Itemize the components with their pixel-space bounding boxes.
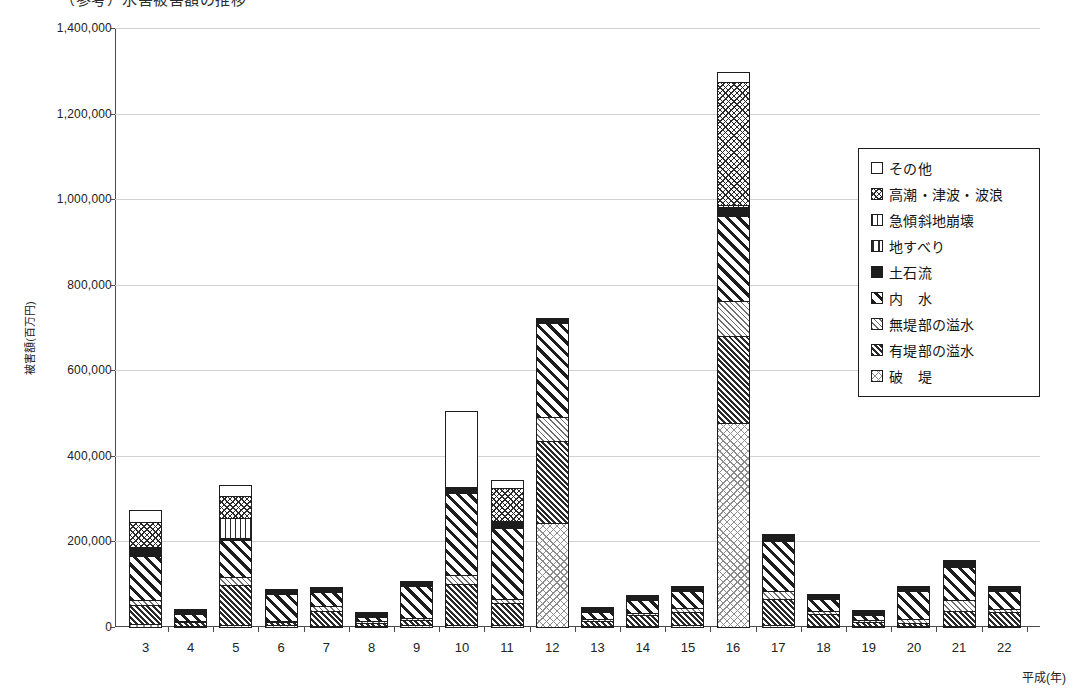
bar-segment-levee_breach (310, 626, 343, 628)
y-tick-mark (110, 28, 115, 29)
bar-segment-levee_breach (671, 625, 704, 628)
bar-7 (310, 587, 343, 627)
bar-segment-levee_breach (626, 626, 659, 628)
bar-17 (762, 534, 795, 627)
x-tick-mark (484, 627, 485, 632)
bar-segment-overflow_no_levee (536, 417, 569, 442)
bar-segment-overflow_levee (129, 605, 162, 624)
legend-swatch-overflow_levee (871, 344, 883, 356)
bar-segment-inland_water (310, 592, 343, 607)
x-tick-mark (982, 627, 983, 632)
legend-item-levee_breach: 破 堤 (859, 363, 1039, 389)
bar-segment-overflow_levee (310, 611, 343, 627)
legend-item-storm_surge: 高潮・津波・波浪 (859, 181, 1039, 207)
bar-segment-other (445, 411, 478, 488)
bar-segment-storm_surge (219, 496, 252, 520)
bar-segment-inland_water (445, 493, 478, 576)
legend-label-landslide: 地すべり (889, 236, 945, 256)
y-tick-label: 1,000,000 (28, 192, 112, 206)
bar-segment-levee_breach (581, 626, 614, 628)
x-tick-label-10: 10 (442, 640, 482, 655)
legend-label-debris_flow: 土石流 (889, 262, 932, 282)
bar-segment-levee_breach (219, 625, 252, 628)
legend-swatch-steep_slope (871, 214, 883, 226)
bar-segment-levee_breach (988, 626, 1021, 628)
x-tick-label-7: 7 (306, 640, 346, 655)
bar-segment-levee_breach (265, 625, 298, 628)
legend-label-levee_breach: 破 堤 (889, 366, 932, 386)
x-tick-label-6: 6 (261, 640, 301, 655)
x-tick-label-16: 16 (713, 640, 753, 655)
bar-segment-levee_breach (762, 625, 795, 628)
x-tick-label-18: 18 (804, 640, 844, 655)
bar-22 (988, 586, 1021, 627)
bar-segment-overflow_levee (445, 584, 478, 626)
bar-segment-inland_water (988, 591, 1021, 610)
bar-segment-inland_water (671, 591, 704, 609)
bar-segment-storm_surge (717, 82, 750, 206)
x-tick-mark (304, 627, 305, 632)
legend-swatch-debris_flow (871, 266, 883, 278)
bar-segment-inland_water (762, 541, 795, 591)
bar-18 (807, 594, 840, 627)
bar-segment-inland_water (265, 594, 298, 621)
x-tick-label-14: 14 (623, 640, 663, 655)
bar-segment-inland_water (400, 586, 433, 619)
bar-segment-levee_breach (536, 523, 569, 628)
bar-segment-inland_water (717, 216, 750, 302)
y-tick-label: 600,000 (28, 363, 112, 377)
x-tick-label-8: 8 (352, 640, 392, 655)
bar-15 (671, 586, 704, 627)
bar-10 (445, 411, 478, 627)
y-axis-tick-labels: 0200,000400,000600,000800,0001,000,0001,… (20, 0, 112, 700)
y-tick-mark (110, 285, 115, 286)
gridline (115, 114, 1040, 115)
gridline (115, 541, 1040, 542)
clipped-header-text: （参考）水害被害額の推移 (0, 0, 1082, 10)
y-tick-mark (110, 456, 115, 457)
legend-item-inland_water: 内 水 (859, 285, 1039, 311)
bar-segment-overflow_levee (671, 612, 704, 627)
bar-segment-levee_breach (943, 626, 976, 628)
legend-label-storm_surge: 高潮・津波・波浪 (889, 184, 1003, 204)
x-tick-mark (1027, 627, 1028, 632)
legend-swatch-storm_surge (871, 188, 883, 200)
bar-14 (626, 595, 659, 628)
x-axis-title: 平成(年) (1022, 668, 1066, 685)
legend-swatch-overflow_no_levee (871, 318, 883, 330)
x-tick-mark (936, 627, 937, 632)
bar-21 (943, 560, 976, 627)
x-tick-mark (801, 627, 802, 632)
x-tick-label-11: 11 (487, 640, 527, 655)
x-tick-mark (846, 627, 847, 632)
x-tick-label-17: 17 (758, 640, 798, 655)
x-tick-mark (756, 627, 757, 632)
legend-swatch-landslide (871, 240, 883, 252)
legend-label-inland_water: 内 水 (889, 288, 932, 308)
bar-5 (219, 485, 252, 627)
x-tick-mark (439, 627, 440, 632)
legend-item-other: その他 (859, 155, 1039, 181)
bar-segment-inland_water (897, 591, 930, 620)
bar-segment-inland_water (219, 540, 252, 579)
y-tick-label: 1,200,000 (28, 107, 112, 121)
bar-segment-overflow_levee (219, 585, 252, 626)
legend-item-overflow_levee: 有堤部の溢水 (859, 337, 1039, 363)
y-tick-mark (110, 627, 115, 628)
bar-segment-inland_water (626, 600, 659, 614)
bar-segment-inland_water (943, 567, 976, 601)
legend-item-overflow_no_levee: 無堤部の溢水 (859, 311, 1039, 337)
x-tick-mark (710, 627, 711, 632)
x-tick-label-5: 5 (216, 640, 256, 655)
legend-swatch-inland_water (871, 292, 883, 304)
x-tick-mark (213, 627, 214, 632)
bar-6 (265, 589, 298, 627)
y-tick-label: 800,000 (28, 278, 112, 292)
legend-item-landslide: 地すべり (859, 233, 1039, 259)
chart-container: （参考）水害被害額の推移 被害額(百万円) 0200,000400,000600… (0, 0, 1082, 700)
y-tick-mark (110, 199, 115, 200)
bar-segment-overflow_levee (943, 611, 976, 627)
bar-segment-levee_breach (445, 625, 478, 628)
y-tick-label: 400,000 (28, 449, 112, 463)
x-tick-mark (394, 627, 395, 632)
